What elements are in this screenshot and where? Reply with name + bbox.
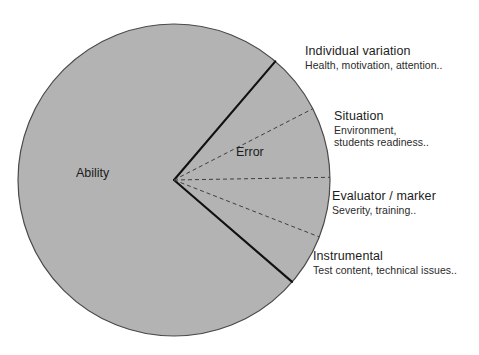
callout-evaluator-marker-subtitle: Severity, training..	[332, 204, 436, 216]
callout-individual-variation-subtitle: Health, motivation, attention..	[305, 59, 443, 71]
pie-label-ability: Ability	[76, 166, 109, 180]
pie-label-error-text: Error	[236, 145, 264, 159]
callout-instrumental: Instrumental Test content, technical iss…	[313, 249, 457, 276]
callout-evaluator-marker-title: Evaluator / marker	[332, 189, 436, 204]
pie-label-error: Error	[236, 145, 264, 159]
callout-situation-title: Situation	[334, 109, 429, 124]
pie-label-ability-text: Ability	[76, 166, 109, 180]
callout-instrumental-subtitle: Test content, technical issues..	[313, 264, 457, 276]
callout-individual-variation: Individual variation Health, motivation,…	[305, 44, 443, 71]
callout-individual-variation-title: Individual variation	[305, 44, 443, 59]
pie-diagram-figure: Ability Error Individual variation Healt…	[0, 0, 479, 355]
callout-instrumental-title: Instrumental	[313, 249, 457, 264]
callout-situation: Situation Environment, students readines…	[334, 109, 429, 149]
callout-situation-subtitle-line2: students readiness..	[334, 136, 429, 148]
callout-situation-subtitle-line1: Environment,	[334, 124, 429, 136]
callout-evaluator-marker: Evaluator / marker Severity, training..	[332, 189, 436, 216]
